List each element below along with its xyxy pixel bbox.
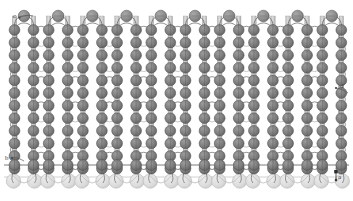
knit-diagram-figure: a b c d (0, 0, 353, 201)
label-leader-lines (11, 15, 348, 181)
yarn-paths-back (4, 43, 349, 165)
knit-structure-canvas (0, 0, 353, 201)
loop-nodes (9, 10, 347, 174)
loop-leg-bars (12, 16, 343, 167)
yarn-paths (11, 16, 346, 183)
ghost-course-nodes (4, 174, 349, 188)
